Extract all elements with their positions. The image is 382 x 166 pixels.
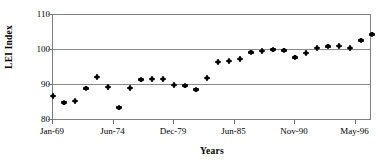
y-axis-tick-label-group: 110 100 90 80 xyxy=(24,0,50,166)
data-point xyxy=(216,60,220,64)
data-point xyxy=(161,77,165,81)
gridline-90 xyxy=(53,84,370,85)
data-point xyxy=(304,51,308,55)
data-point xyxy=(293,55,297,59)
x-tick-mark-2 xyxy=(173,120,174,124)
plot-area xyxy=(52,14,371,120)
data-point xyxy=(128,86,132,90)
x-tick-label-jun-74: Jun-74 xyxy=(83,126,143,136)
data-point xyxy=(260,49,264,53)
x-tick-mark-1 xyxy=(113,120,114,124)
data-point xyxy=(238,57,242,61)
x-tick-mark-5 xyxy=(355,120,356,124)
data-point xyxy=(194,88,198,92)
data-point xyxy=(205,76,209,80)
data-point xyxy=(183,84,187,88)
data-point xyxy=(73,99,77,103)
x-tick-mark-3 xyxy=(234,120,235,124)
x-tick-label-may-96: May-96 xyxy=(325,126,382,136)
data-point xyxy=(326,44,330,48)
data-point xyxy=(106,85,110,89)
data-point xyxy=(139,78,143,82)
gridline-100 xyxy=(53,49,370,50)
x-tick-mark-0 xyxy=(52,120,53,124)
data-point xyxy=(150,77,154,81)
x-axis-title: Years xyxy=(52,146,372,156)
y-tick-label-110: 110 xyxy=(26,10,50,19)
data-point xyxy=(84,86,88,90)
x-tick-label-nov-90: Nov-90 xyxy=(264,126,324,136)
data-point xyxy=(315,46,319,50)
data-point xyxy=(249,50,253,54)
data-point xyxy=(359,38,363,42)
x-tick-label-jun-85: Jun-85 xyxy=(204,126,264,136)
lei-index-scatter-chart: LEI Index 110 100 90 80 Jan-69 Jun-74 De… xyxy=(0,0,382,166)
data-point xyxy=(172,83,176,87)
data-point xyxy=(62,101,66,105)
data-point xyxy=(337,44,341,48)
y-tick-label-80: 80 xyxy=(26,115,50,124)
data-point xyxy=(117,106,121,110)
x-tick-label-jan-69: Jan-69 xyxy=(22,126,82,136)
y-tick-label-100: 100 xyxy=(26,45,50,54)
data-point xyxy=(282,48,286,52)
data-point xyxy=(271,48,275,52)
y-tick-label-90: 90 xyxy=(26,80,50,89)
data-point xyxy=(227,59,231,63)
data-point xyxy=(370,32,374,36)
y-axis-title: LEI Index xyxy=(2,0,16,130)
x-tick-mark-4 xyxy=(294,120,295,124)
data-point xyxy=(51,94,55,98)
x-tick-label-dec-79: Dec-79 xyxy=(143,126,203,136)
data-point xyxy=(95,75,99,79)
